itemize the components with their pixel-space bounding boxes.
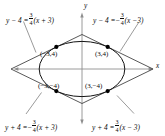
x-axis-label: x bbox=[156, 63, 159, 70]
figure-container: y x (−3,4) (3,4) (−3,−4) (3,−4) y − 4 =3… bbox=[0, 0, 165, 136]
equation-lhs: y + 4 = bbox=[5, 123, 28, 132]
equation-sign: − bbox=[116, 16, 120, 25]
equation-tangent-upper-right: y − 4 =−34(x −3) bbox=[93, 12, 143, 26]
leader-line-upper-right bbox=[120, 22, 139, 52]
point-marker-upper-left bbox=[54, 45, 58, 49]
y-axis-arrowhead-down bbox=[80, 119, 83, 124]
point-label-lower-right: (3,−4) bbox=[85, 83, 102, 90]
axes-group bbox=[13, 13, 153, 125]
equation-lhs: y + 4 = bbox=[92, 123, 115, 132]
equation-tangent-upper-left: y − 4 =34(x + 3) bbox=[6, 12, 54, 26]
equation-rhs: (x −3) bbox=[125, 16, 144, 25]
point-marker-upper-right bbox=[106, 45, 110, 49]
point-marker-lower-right bbox=[106, 89, 110, 93]
point-label-upper-right: (3,4) bbox=[95, 51, 108, 58]
equation-lhs: y − 4 = bbox=[6, 16, 29, 25]
fraction-denominator: 4 bbox=[120, 19, 124, 25]
leader-line-lower-left bbox=[26, 93, 42, 115]
point-label-upper-left: (−3,4) bbox=[40, 51, 57, 58]
leader-line-lower-right bbox=[117, 96, 134, 114]
equation-tangent-lower-right: y + 4 =34(x − 3) bbox=[92, 119, 140, 133]
fraction-numerator: 3 bbox=[32, 119, 36, 126]
equation-rhs: (x + 3) bbox=[37, 123, 58, 132]
leader-lines-group bbox=[24, 22, 140, 115]
y-axis-arrowhead bbox=[80, 13, 83, 18]
y-axis-label: y bbox=[84, 3, 87, 10]
fraction-three-fourths: 34 bbox=[120, 12, 124, 26]
equation-rhs: (x + 3) bbox=[33, 16, 54, 25]
fraction-three-fourths: 34 bbox=[32, 119, 36, 133]
fraction-denominator: 4 bbox=[32, 126, 36, 132]
fraction-numerator: 3 bbox=[120, 12, 124, 19]
leader-line-upper-left bbox=[24, 22, 37, 53]
equation-rhs: (x − 3) bbox=[119, 123, 140, 132]
equation-lhs: y − 4 = bbox=[93, 16, 116, 25]
point-label-lower-left: (−3,−4) bbox=[38, 83, 59, 90]
equation-tangent-lower-left: y + 4 =−34(x + 3) bbox=[5, 119, 57, 133]
equation-sign: − bbox=[28, 123, 32, 132]
